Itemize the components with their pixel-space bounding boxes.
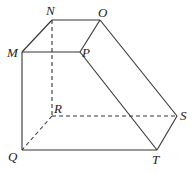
- dashed-edges: [22, 20, 177, 150]
- label-P: P: [81, 45, 90, 60]
- solid-edges: [22, 20, 177, 150]
- label-N: N: [45, 3, 56, 18]
- edge-OS: [100, 20, 177, 116]
- label-Q: Q: [8, 149, 18, 164]
- edge-ST: [157, 116, 177, 150]
- label-M: M: [6, 45, 19, 60]
- edge-RQ: [22, 116, 52, 150]
- edge-PT: [80, 52, 157, 150]
- label-R: R: [53, 101, 62, 116]
- edge-MN: [22, 20, 52, 52]
- label-O: O: [98, 5, 108, 20]
- label-T: T: [152, 152, 160, 167]
- geometry-diagram: N O M P R S Q T: [0, 0, 195, 173]
- label-S: S: [180, 108, 187, 123]
- vertex-labels: N O M P R S Q T: [6, 3, 187, 167]
